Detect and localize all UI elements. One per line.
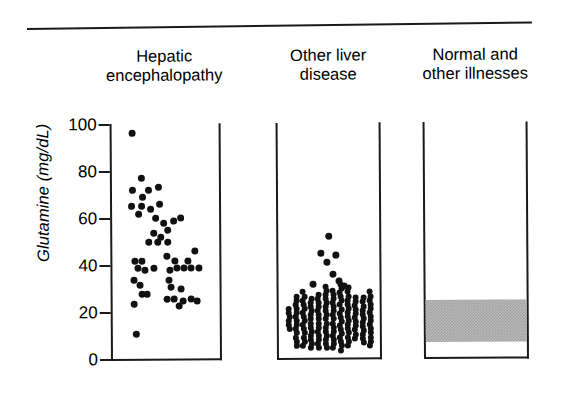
y-tick-40: [99, 265, 110, 267]
data-point: [323, 283, 329, 289]
data-point-outlier: [309, 280, 316, 287]
data-point-outlier: [332, 252, 339, 259]
data-point-outlier: [323, 259, 330, 266]
y-tick-80: [99, 171, 110, 173]
panel-1-title-line2: encephalopathy: [94, 65, 234, 85]
data-point: [176, 303, 183, 310]
data-point: [145, 187, 152, 194]
data-point: [193, 298, 200, 305]
panel-3-title-line2: other illnesses: [402, 63, 548, 83]
data-point: [136, 281, 143, 288]
y-tick-0: [100, 359, 111, 361]
y-tick-label-40: 40: [78, 257, 97, 274]
y-tick-label-100: 100: [68, 116, 96, 133]
data-point: [138, 258, 145, 265]
y-tick-20: [100, 312, 111, 314]
panel-other-liver-disease: [276, 122, 382, 360]
data-point: [128, 130, 135, 137]
plot-area: Glutamine (mg/dL) 100 80 60 40 20 0 Hepa…: [0, 0, 566, 408]
glutamine-figure: Glutamine (mg/dL) 100 80 60 40 20 0 Hepa…: [0, 0, 566, 408]
panel-2-title-line1: Other liver: [258, 45, 398, 65]
y-tick-label-0: 0: [88, 351, 98, 368]
y-tick-100: [99, 124, 110, 126]
data-point: [309, 296, 315, 302]
data-point: [145, 239, 152, 246]
data-point: [167, 284, 174, 291]
data-point: [154, 239, 161, 246]
data-point: [143, 291, 150, 298]
data-point: [352, 294, 358, 300]
y-tick-60: [99, 218, 110, 220]
data-point: [135, 210, 142, 217]
data-point: [293, 293, 299, 299]
y-tick-label-60: 60: [78, 210, 97, 227]
data-point: [170, 295, 177, 302]
panel-1-title: Hepatic encephalopathy: [94, 46, 234, 85]
data-point: [163, 296, 170, 303]
panel-1-title-line1: Hepatic: [94, 46, 234, 66]
data-point: [170, 217, 177, 224]
data-point-outlier: [317, 250, 324, 257]
data-point-outlier: [340, 283, 347, 290]
panel-3-title: Normal and other illnesses: [402, 44, 548, 83]
data-point: [137, 175, 144, 182]
data-point: [285, 306, 291, 312]
data-point: [330, 287, 336, 293]
data-point: [160, 220, 167, 227]
data-point: [150, 229, 157, 236]
y-tick-label-80: 80: [78, 163, 97, 180]
panel-2-title: Other liver disease: [258, 45, 398, 84]
data-point: [184, 257, 191, 264]
panel-normal-and-other-illnesses: [423, 121, 529, 359]
panel-2-title-line2: disease: [258, 64, 398, 84]
y-tick-label-20: 20: [79, 304, 98, 321]
y-axis-label: Glutamine (mg/dL): [33, 83, 53, 303]
data-point: [163, 253, 170, 260]
panel-3-title-line1: Normal and: [402, 44, 548, 64]
data-point: [129, 187, 136, 194]
data-point: [195, 264, 202, 271]
panel-hepatic-encephalopathy: [111, 123, 222, 361]
normal-range-band: [426, 299, 527, 342]
